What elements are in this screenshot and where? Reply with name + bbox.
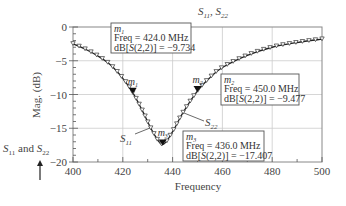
svg-text:dB[S(2,2)] = −9.734: dB[S(2,2)] = −9.734	[114, 42, 195, 54]
svg-text:m3: m3	[158, 127, 168, 139]
svg-text:0: 0	[62, 21, 68, 33]
svg-text:−20: −20	[50, 156, 68, 168]
svg-text:−10: −10	[50, 89, 68, 101]
svg-text:460: 460	[214, 165, 231, 177]
marker-box-m3: m3 Freq = 436.0 MHz dB[S(2,2)] = −17.407	[183, 131, 272, 162]
s11-curve-label: S11	[120, 128, 150, 147]
svg-text:500: 500	[314, 165, 331, 177]
marker-box-m2: m2 Freq = 450.0 MHz dB[S(2,2)] = −9.477	[221, 74, 305, 105]
x-tick-labels: 400420440460480500	[65, 165, 331, 177]
svg-text:480: 480	[264, 165, 281, 177]
svg-text:S11: S11	[120, 132, 132, 147]
svg-text:−15: −15	[50, 122, 68, 134]
svg-text:440: 440	[164, 165, 181, 177]
svg-text:−5: −5	[55, 55, 67, 67]
up-arrow-icon	[37, 160, 43, 180]
svg-text:S22: S22	[205, 116, 218, 131]
svg-text:dB[S(2,2)] = −9.477: dB[S(2,2)] = −9.477	[224, 93, 305, 105]
x-axis-title: Frequency	[175, 180, 222, 192]
marker-box-m1: m1 Freq = 424.0 MHz dB[S(2,2)] = −9.734	[111, 23, 195, 54]
svg-text:m1: m1	[128, 76, 138, 88]
y-axis-title: Mag. (dB)	[30, 72, 43, 118]
svg-text:m2: m2	[193, 74, 203, 86]
s-parameter-chart: S11, S22 400420440460480500 0−5−10−15−20…	[0, 0, 346, 206]
svg-text:400: 400	[65, 165, 82, 177]
y-tick-labels: 0−5−10−15−20	[50, 21, 68, 168]
svg-text:dB[S(2,2)] = −17.407: dB[S(2,2)] = −17.407	[186, 150, 272, 162]
chart-title: S11, S22	[198, 5, 228, 20]
svg-text:420: 420	[115, 165, 132, 177]
side-note-s11-s22: S11 and S22	[3, 142, 50, 157]
